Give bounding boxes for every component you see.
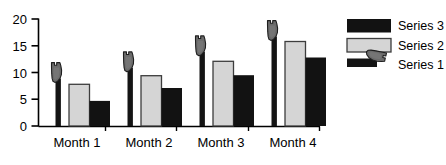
y-tick-label-5: 5 bbox=[20, 92, 27, 107]
x-label-month-2: Month 2 bbox=[126, 135, 173, 150]
bar-series-2-month-3[interactable] bbox=[213, 61, 234, 126]
legend-label-series-3: Series 3 bbox=[398, 19, 444, 33]
chart-canvas: 20 15 10 5 0 bbox=[0, 0, 446, 165]
black-swatch-icon bbox=[347, 19, 391, 33]
x-label-month-4: Month 4 bbox=[270, 135, 317, 150]
x-label-month-1: Month 1 bbox=[54, 135, 101, 150]
bar-chart: 20 15 10 5 0 bbox=[0, 0, 446, 165]
bar-series-3-month-1[interactable] bbox=[90, 101, 111, 126]
y-tick-label-20: 20 bbox=[13, 12, 27, 27]
bar-series-2-month-1[interactable] bbox=[69, 84, 90, 126]
bar-series-2-month-2[interactable] bbox=[141, 76, 162, 126]
bar-series-3-month-4[interactable] bbox=[306, 58, 327, 127]
bar-series-3-month-3[interactable] bbox=[234, 75, 255, 126]
legend-label-series-1: Series 1 bbox=[398, 58, 444, 72]
x-label-month-3: Month 3 bbox=[198, 135, 245, 150]
y-tick-label-10: 10 bbox=[13, 66, 27, 81]
bar-series-2-month-4[interactable] bbox=[285, 42, 306, 127]
bar-series-3-month-2[interactable] bbox=[162, 88, 183, 126]
legend-label-series-2: Series 2 bbox=[398, 39, 444, 53]
y-tick-label-15: 15 bbox=[13, 39, 27, 54]
y-tick-label-0: 0 bbox=[20, 119, 27, 134]
